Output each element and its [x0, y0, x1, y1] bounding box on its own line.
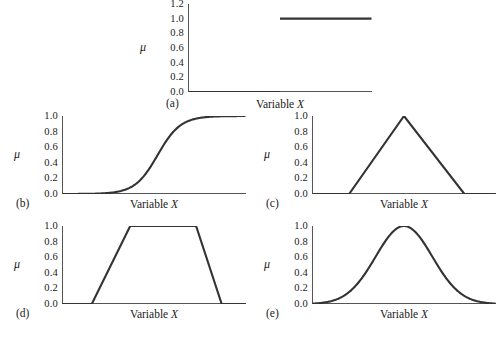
x-axis-title-prefix-a: Variable [256, 98, 297, 110]
y-tick-label: 0.2 [294, 173, 308, 184]
y-tick-label: 0.4 [44, 158, 58, 169]
y-tick-label: 0.4 [294, 268, 308, 279]
x-axis-title-d: Variable X [62, 308, 246, 320]
x-axis-title-e: Variable X [312, 308, 496, 320]
y-tick-label: 0.8 [44, 237, 58, 248]
plot-area-d [62, 226, 246, 304]
y-tick-label: 0.6 [44, 252, 58, 263]
y-axis-label-b: μ [14, 147, 20, 162]
y-tick-label: 0.2 [44, 283, 58, 294]
x-axis-title-var-a: X [297, 98, 304, 110]
y-tick-label: 0.6 [170, 43, 184, 54]
panel-c: 1.00.80.60.40.20.0 μ Variable X (c) [264, 112, 496, 220]
plot-area-a [188, 4, 372, 92]
plot-svg-e [312, 226, 496, 304]
y-tick-label: 0.2 [170, 72, 184, 83]
x-axis-title-var-e: X [421, 308, 428, 320]
y-tick-label: 0.8 [44, 127, 58, 138]
y-tick-label: 1.0 [170, 14, 184, 25]
panel-e: 1.00.80.60.40.20.0 μ Variable X (e) [264, 222, 496, 334]
x-axis-title-prefix-b: Variable [130, 198, 171, 210]
y-tick-label: 0.2 [294, 283, 308, 294]
y-tick-label: 0.0 [44, 299, 58, 310]
panel-letter-d: (d) [16, 307, 29, 319]
y-axis-label-e: μ [264, 257, 270, 272]
y-tick-label: 0.6 [294, 252, 308, 263]
panel-letter-a: (a) [166, 97, 179, 109]
panel-d: 1.00.80.60.40.20.0 μ Variable X (d) [14, 222, 246, 334]
plot-svg-c [312, 116, 496, 194]
x-axis-title-a: Variable X [188, 98, 372, 110]
y-tick-label: 0.4 [170, 58, 184, 69]
y-tick-label: 1.0 [44, 221, 58, 232]
plot-area-e [312, 226, 496, 304]
y-axis-label-c: μ [264, 147, 270, 162]
y-tick-label: 0.0 [294, 299, 308, 310]
membership-functions-figure: 1.21.00.80.60.40.20.0 μ Variable X (a) 1… [0, 0, 500, 339]
y-tick-label: 0.8 [294, 237, 308, 248]
plot-svg-a [188, 4, 372, 92]
y-tick-label: 0.8 [294, 127, 308, 138]
y-tick-label: 0.6 [294, 142, 308, 153]
plot-area-b [62, 116, 246, 194]
y-axis-label-d: μ [14, 257, 20, 272]
x-axis-title-prefix-c: Variable [380, 198, 421, 210]
y-tick-label: 0.2 [44, 173, 58, 184]
x-axis-title-var-c: X [421, 198, 428, 210]
y-tick-label: 0.0 [170, 87, 184, 98]
y-tick-label: 0.0 [44, 189, 58, 200]
y-tick-label: 0.6 [44, 142, 58, 153]
y-tick-label: 0.4 [44, 268, 58, 279]
plot-area-c [312, 116, 496, 194]
y-tick-label: 1.0 [294, 111, 308, 122]
plot-svg-d [62, 226, 246, 304]
panel-letter-b: (b) [16, 197, 29, 209]
y-tick-label: 1.2 [170, 0, 184, 10]
y-tick-label: 1.0 [294, 221, 308, 232]
y-tick-label: 0.0 [294, 189, 308, 200]
x-axis-title-var-d: X [171, 308, 178, 320]
panel-letter-e: (e) [266, 307, 279, 319]
plot-svg-b [62, 116, 246, 194]
panel-letter-c: (c) [266, 197, 279, 209]
y-axis-label-a: μ [140, 40, 146, 55]
y-tick-label: 1.0 [44, 111, 58, 122]
x-axis-title-b: Variable X [62, 198, 246, 210]
panel-b: 1.00.80.60.40.20.0 μ Variable X (b) [14, 112, 246, 220]
x-axis-title-prefix-d: Variable [130, 308, 171, 320]
y-tick-label: 0.8 [170, 28, 184, 39]
x-axis-title-c: Variable X [312, 198, 496, 210]
panel-a: 1.21.00.80.60.40.20.0 μ Variable X (a) [140, 2, 372, 114]
x-axis-title-prefix-e: Variable [380, 308, 421, 320]
x-axis-title-var-b: X [171, 198, 178, 210]
y-tick-label: 0.4 [294, 158, 308, 169]
